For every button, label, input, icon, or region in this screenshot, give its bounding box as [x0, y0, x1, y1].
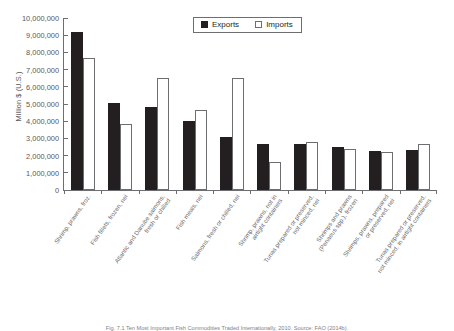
legend-item-exports: Exports — [201, 20, 239, 29]
bar-imports[interactable] — [83, 58, 95, 190]
bar-exports[interactable] — [108, 103, 120, 190]
bar-exports[interactable] — [294, 144, 306, 190]
y-axis-tick: 8,000,000 — [0, 48, 64, 57]
bar-exports[interactable] — [369, 151, 381, 190]
y-axis-tick: 5,000,000 — [0, 100, 64, 109]
legend-label-exports: Exports — [212, 20, 239, 29]
figure-container: Million $ (U.S.) 10,000,0009,000,0008,00… — [0, 0, 454, 331]
bar-exports[interactable] — [145, 107, 157, 190]
y-axis-tick: 10,000,000 — [0, 14, 64, 23]
plot-area: 10,000,0009,000,0008,000,0007,000,0006,0… — [63, 18, 437, 191]
outlined-square-icon — [255, 21, 262, 28]
bar-group — [325, 18, 362, 190]
bar-imports[interactable] — [306, 142, 318, 190]
figure-caption: Fig. 7.1 Ten Most Important Fish Commodi… — [0, 325, 454, 331]
y-axis-tick: 6,000,000 — [0, 82, 64, 91]
legend-label-imports: Imports — [266, 20, 293, 29]
x-axis-tick-labels: Shrimp, prawns, froz.Fish fillets, froze… — [63, 193, 436, 305]
bar-group — [176, 18, 213, 190]
x-axis-tick-label: Tunas prepared or preserved, not minced,… — [353, 193, 434, 300]
chart-legend: Exports Imports — [193, 17, 302, 33]
x-axis-tick-label: Fish fillets, frozen, nei — [54, 193, 129, 295]
bar-imports[interactable] — [157, 78, 169, 190]
x-axis-tick-label: Salmons, fresh or chilled, nei — [166, 193, 241, 295]
y-axis-tick: 3,000,000 — [0, 134, 64, 143]
bar-group — [64, 18, 101, 190]
bar-imports[interactable] — [381, 152, 393, 190]
legend-item-imports: Imports — [255, 20, 293, 29]
y-axis-tick: 0 — [0, 186, 64, 195]
bar-imports[interactable] — [269, 162, 281, 190]
bar-imports[interactable] — [232, 78, 244, 190]
bar-group — [250, 18, 287, 190]
y-axis-tick: 1,000,000 — [0, 168, 64, 177]
bar-imports[interactable] — [344, 149, 356, 190]
bar-imports[interactable] — [418, 144, 430, 190]
bar-group — [139, 18, 176, 190]
bar-exports[interactable] — [71, 32, 83, 190]
bar-imports[interactable] — [120, 124, 132, 190]
y-axis-tick: 4,000,000 — [0, 117, 64, 126]
bar-group — [101, 18, 138, 190]
y-axis-tick: 7,000,000 — [0, 65, 64, 74]
x-axis-tick-label: Shrimp, prawns, froz. — [17, 193, 92, 295]
bar-exports[interactable] — [183, 121, 195, 190]
bar-exports[interactable] — [257, 144, 269, 190]
bar-exports[interactable] — [332, 147, 344, 190]
filled-square-icon — [201, 21, 208, 28]
bar-group — [362, 18, 399, 190]
bar-group-container — [64, 18, 437, 190]
bar-exports[interactable] — [220, 137, 232, 190]
y-axis-tick: 2,000,000 — [0, 151, 64, 160]
bar-group — [400, 18, 437, 190]
bar-group — [288, 18, 325, 190]
y-axis-tick: 9,000,000 — [0, 31, 64, 40]
bar-group — [213, 18, 250, 190]
bar-imports[interactable] — [195, 110, 207, 190]
bar-exports[interactable] — [406, 150, 418, 190]
